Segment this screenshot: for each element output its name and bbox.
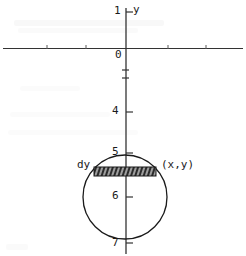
y-axis-name-label: y [133,4,140,15]
y-tick-label-7: 7 [112,237,119,248]
y-tick-label-0: 0 [115,49,122,60]
dy-label: dy [77,159,90,170]
differential-strip [94,167,156,176]
point-label: (x,y) [161,159,194,170]
y-tick-label-6: 6 [112,190,119,201]
figure-canvas: 1 0 4 5 6 7 y dy (x,y) [0,0,246,256]
y-axis-ticks [122,12,133,243]
y-tick-label-4: 4 [112,105,119,116]
y-tick-label-5: 5 [112,146,119,157]
y-tick-label-1: 1 [114,5,121,16]
diagram-svg [0,0,246,256]
